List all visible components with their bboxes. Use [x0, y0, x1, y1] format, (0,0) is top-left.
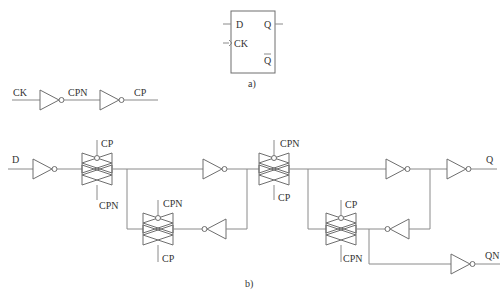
dff-symbol: D CK Q Q a): [223, 11, 283, 90]
pin-q-label: Q: [264, 19, 272, 30]
tg4-bottom-label: CPN: [343, 253, 362, 264]
q-output-inverter-icon: [447, 159, 471, 179]
pin-ck-label: CK: [234, 38, 249, 49]
tg1-bottom-label: CPN: [99, 200, 118, 211]
inverter-icon: [40, 90, 64, 110]
qn-output-label: QN: [485, 250, 499, 261]
transmission-gate-3-icon: [259, 153, 289, 185]
qn-output-inverter-icon: [451, 254, 475, 274]
transmission-gate-4-icon: [326, 213, 356, 245]
inverter-icon: [100, 90, 124, 110]
transmission-gate-1-icon: [82, 153, 112, 185]
tg3-bottom-label: CP: [278, 192, 291, 203]
q-output-label: Q: [486, 154, 494, 165]
pin-qbar-label: Q: [264, 55, 272, 66]
slave-inverter-icon: [386, 159, 410, 179]
cpn-label: CPN: [68, 87, 87, 98]
tg4-top-label: CP: [345, 199, 358, 210]
tg1-top-label: CP: [101, 138, 114, 149]
pin-d-label: D: [236, 19, 243, 30]
cp-label: CP: [134, 87, 147, 98]
caption-a: a): [248, 78, 256, 90]
input-inverter-icon: [33, 159, 57, 179]
slave-feedback-inverter-icon: [385, 219, 409, 239]
dff-circuit: D CP CPN CPN CP CPN CP: [8, 138, 500, 290]
caption-b: b): [245, 278, 253, 290]
flip-flop-schematic: D CK Q Q a) CK CPN CP D CP CPN: [0, 0, 504, 296]
clock-buffer-chain: CK CPN CP: [12, 87, 158, 110]
ck-label: CK: [13, 87, 28, 98]
transmission-gate-2-icon: [143, 213, 173, 245]
tg2-bottom-label: CP: [162, 253, 175, 264]
tg2-top-label: CPN: [163, 198, 182, 209]
master-feedback-inverter-icon: [202, 219, 226, 239]
tg3-top-label: CPN: [280, 138, 299, 149]
d-input-label: D: [12, 154, 19, 165]
master-inverter-icon: [203, 159, 227, 179]
